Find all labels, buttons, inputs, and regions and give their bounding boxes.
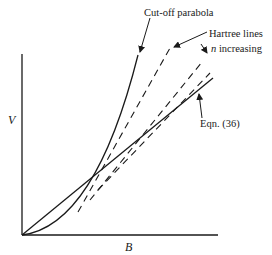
eqn36-line — [22, 78, 213, 235]
x-axis-label: B — [125, 240, 133, 254]
hartree-line-2 — [90, 62, 202, 200]
increasing-text: increasing — [216, 43, 263, 54]
y-axis-label: V — [8, 113, 17, 127]
diagram-canvas: V B Cut-off parabola Hartree lines n inc… — [0, 0, 272, 255]
hartree-lines-label: Hartree lines — [209, 28, 263, 39]
cutoff-parabola-label: Cut-off parabola — [144, 7, 214, 18]
magnetron-diagram: V B Cut-off parabola Hartree lines n inc… — [0, 0, 272, 255]
eqn36-arrow — [199, 94, 202, 118]
eqn36-label: Eqn. (36) — [200, 118, 240, 130]
n-increasing-arrow — [201, 44, 207, 53]
hartree-line-1 — [78, 48, 170, 212]
cutoff-arrow — [140, 18, 150, 52]
n-increasing-label: n increasing — [211, 43, 263, 54]
